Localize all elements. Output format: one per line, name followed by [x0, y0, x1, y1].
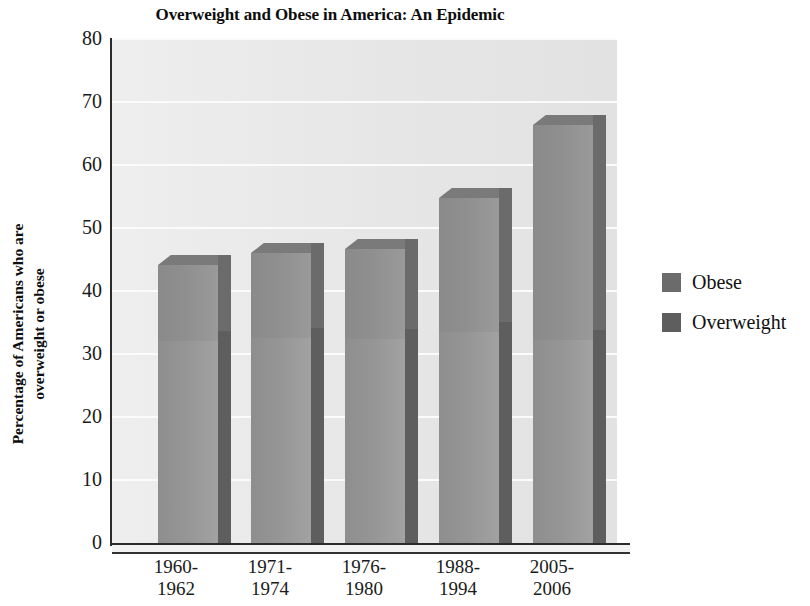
bar-side-face: [593, 115, 606, 340]
bar-face: [345, 339, 405, 543]
floor-edge: [112, 552, 630, 554]
bar-face: [158, 341, 218, 543]
bar-segment-overweight[interactable]: [251, 338, 311, 543]
bar-side-face: [593, 330, 606, 543]
bar-face: [439, 332, 499, 543]
bar-face: [251, 253, 311, 338]
x-tick-1971-1974: 1971- 1974: [222, 556, 318, 600]
x-tick-line-2: 1994: [410, 578, 506, 600]
bar-face: [533, 125, 593, 340]
bar-segment-overweight[interactable]: [533, 340, 593, 543]
bar-side-face: [311, 243, 324, 338]
bar-side-face: [311, 328, 324, 543]
bar-face: [345, 249, 405, 339]
plot-area: [112, 38, 617, 543]
legend-swatch-obese: [662, 273, 681, 292]
bar-segment-overweight[interactable]: [158, 341, 218, 543]
legend-swatch-overweight: [662, 313, 681, 332]
y-tick-70: 70: [56, 91, 102, 111]
x-tick-line-2: 1980: [316, 578, 412, 600]
floor-face: [112, 545, 630, 552]
y-tick-50: 50: [56, 217, 102, 237]
bar-face: [158, 265, 218, 341]
y-axis-title-line-1: Percentage of Americans who are: [7, 124, 28, 544]
y-axis-line: [110, 38, 112, 546]
bar-segment-obese[interactable]: [345, 249, 405, 339]
legend-item-obese[interactable]: Obese: [662, 262, 786, 302]
gridline-80: [112, 38, 617, 40]
legend-label-obese: Obese: [692, 271, 742, 294]
bar-side-face: [499, 188, 512, 332]
bar-face: [439, 198, 499, 332]
legend: Obese Overweight: [662, 262, 786, 342]
x-tick-line-2: 2006: [504, 578, 600, 600]
x-tick-1988-1994: 1988- 1994: [410, 556, 506, 600]
x-tick-2005-2006: 2005- 2006: [504, 556, 600, 600]
x-tick-line-2: 1974: [222, 578, 318, 600]
y-axis-tick-labels: 80 70 60 50 40 30 20 10 0: [44, 0, 102, 606]
x-tick-line-1: 1976-: [316, 556, 412, 578]
legend-label-overweight: Overweight: [692, 311, 786, 334]
y-tick-40: 40: [56, 280, 102, 300]
bar-segment-obese[interactable]: [533, 125, 593, 340]
bar-segment-obese[interactable]: [158, 265, 218, 341]
bar-side-face: [218, 331, 231, 543]
bar-segment-overweight[interactable]: [345, 339, 405, 543]
bar-segment-obese[interactable]: [439, 198, 499, 332]
x-tick-line-1: 1971-: [222, 556, 318, 578]
y-tick-60: 60: [56, 154, 102, 174]
bar-side-face: [218, 255, 231, 341]
bar-side-face: [499, 322, 512, 543]
x-axis-floor: [112, 543, 630, 555]
bar-face: [251, 338, 311, 543]
x-tick-line-1: 2005-: [504, 556, 600, 578]
y-tick-20: 20: [56, 406, 102, 426]
bar-segment-obese[interactable]: [251, 253, 311, 338]
y-tick-10: 10: [56, 469, 102, 489]
x-tick-1976-1980: 1976- 1980: [316, 556, 412, 600]
bar-segment-overweight[interactable]: [439, 332, 499, 543]
bar-side-face: [405, 329, 418, 543]
gridline-70: [112, 101, 617, 103]
y-tick-80: 80: [56, 28, 102, 48]
x-tick-line-1: 1988-: [410, 556, 506, 578]
legend-item-overweight[interactable]: Overweight: [662, 302, 786, 342]
bar-side-face: [405, 239, 418, 339]
y-tick-0: 0: [56, 532, 102, 552]
x-tick-1960-1962: 1960- 1962: [128, 556, 224, 600]
y-tick-30: 30: [56, 343, 102, 363]
x-tick-line-1: 1960-: [128, 556, 224, 578]
bar-face: [533, 340, 593, 543]
x-tick-line-2: 1962: [128, 578, 224, 600]
